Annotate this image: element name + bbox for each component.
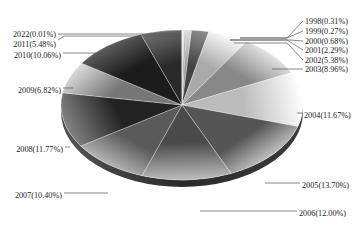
slice-label-2008: 2008(11.77%) xyxy=(16,145,63,154)
leader-line-1999 xyxy=(240,31,303,38)
slice-label-2002: 2002(5.38%) xyxy=(305,56,348,65)
slice-label-2003: 2003(8.96%) xyxy=(305,65,348,74)
slice-label-1999: 1999(0.27%) xyxy=(305,27,348,36)
slice-label-2011: 2011(5.48%) xyxy=(13,40,56,49)
slice-label-2022: 2022(0.01%) xyxy=(13,30,56,39)
slice-label-2001: 2001(2.29%) xyxy=(305,46,348,55)
slice-label-2006: 2006(12.00%) xyxy=(299,209,346,218)
pie-slices xyxy=(61,30,303,180)
slice-label-2007: 2007(10.40%) xyxy=(15,191,62,200)
pie-chart: 1998(0.31%)1999(0.27%)2000(0.68%)2001(2.… xyxy=(0,0,363,228)
slice-label-2009: 2009(6.82%) xyxy=(18,86,61,95)
slice-label-2005: 2005(13.70%) xyxy=(302,181,349,190)
slice-label-2010: 2010(10.06%) xyxy=(14,51,61,60)
slice-label-1998: 1998(0.31%) xyxy=(305,17,348,26)
slice-label-2000: 2000(0.68%) xyxy=(305,37,348,46)
slice-label-2004: 2004(11.67%) xyxy=(304,111,351,120)
